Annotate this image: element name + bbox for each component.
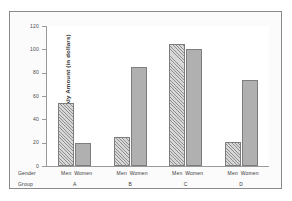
bar-b-men — [114, 137, 130, 166]
gender-label-women-c: Women — [180, 168, 208, 179]
y-axis-tick-label: 100 — [9, 47, 39, 52]
y-axis-tick — [42, 26, 47, 27]
bar-d-women — [242, 80, 258, 166]
axis-row-keys: Gender Group — [12, 168, 48, 190]
bar-d-men — [225, 142, 241, 167]
y-axis-tick — [42, 96, 47, 97]
y-axis-tick-label: 80 — [9, 70, 39, 75]
y-axis-tick-label: 40 — [9, 117, 39, 122]
group-label-d: D — [227, 179, 255, 190]
y-axis-tick — [42, 119, 47, 120]
y-axis-tick — [42, 73, 47, 74]
x-axis-line — [46, 166, 269, 167]
y-axis-tick — [42, 49, 47, 50]
gender-label-women-d: Women — [236, 168, 264, 179]
row-key-gender: Gender — [12, 168, 48, 179]
group-label-a: A — [61, 179, 89, 190]
gender-label-women-b: Women — [125, 168, 153, 179]
y-axis-tick-label: 60 — [9, 94, 39, 99]
group-label-c: C — [172, 179, 200, 190]
group-label-b: B — [116, 179, 144, 190]
y-axis-tick — [42, 166, 47, 167]
bar-c-men — [169, 44, 185, 167]
y-axis-tick — [42, 143, 47, 144]
scan-title-strip — [0, 0, 292, 9]
y-axis-tick-label: 120 — [9, 24, 39, 29]
bar-c-women — [186, 49, 202, 166]
bar-a-women — [75, 143, 91, 166]
chart-figure: Average Weekly Amount (in dollars) 02040… — [0, 0, 292, 201]
bar-a-men — [58, 103, 74, 166]
row-key-group: Group — [12, 179, 48, 190]
gender-label-women-a: Women — [69, 168, 97, 179]
y-axis-tick-label: 20 — [9, 140, 39, 145]
bar-b-women — [131, 67, 147, 166]
